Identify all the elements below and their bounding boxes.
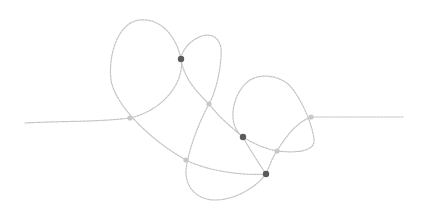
light-crossing-node	[183, 157, 188, 162]
dark-crossing-node	[240, 134, 246, 140]
light-crossing-node	[206, 101, 211, 106]
dark-crossing-node	[263, 171, 269, 177]
light-crossing-node	[308, 114, 313, 119]
dark-crossing-node	[178, 56, 184, 62]
light-crossing-node	[274, 148, 279, 153]
knot-diagram	[0, 0, 431, 210]
light-crossing-node	[127, 115, 132, 120]
knot-strand	[25, 20, 403, 200]
